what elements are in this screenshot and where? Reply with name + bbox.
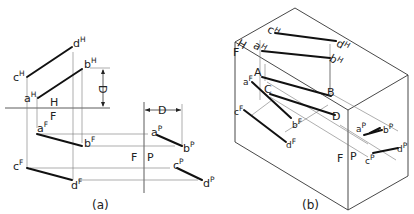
line-cd-front [244,110,286,142]
point-label-bP: bP [183,140,195,155]
line-cd-top [275,33,336,41]
caption-a: (a) [92,198,109,212]
plane-label-h: H [50,96,58,109]
point-label-cP: cP [365,153,375,166]
point-label-aH: aH [24,90,36,105]
figure-a: D D H F F P cH dH aH bH aF bF cF dF aP b… [5,35,215,212]
plane-label-f: F [50,110,56,123]
line-ab-front [37,134,82,146]
line-cd-side [373,148,398,153]
line-cd-top [27,47,72,77]
line-AB-space [262,77,331,96]
point-label-cF: cF [13,158,23,173]
dim-label-d-vertical: D [96,85,109,93]
plane-label-f2: F [131,151,137,164]
point-label-aF: aF [37,120,48,135]
line-ab-top [262,51,330,58]
point-label-C: C [264,83,272,96]
figure-b: F H F P A B C D cH dH aH bH aF bF cF dF … [233,8,408,212]
line-ab-top [38,69,82,98]
line-cd-front [27,168,72,180]
point-label-bH: bH [84,56,97,71]
point-label-dH: dH [73,35,86,50]
line-CD-space [270,94,335,115]
plane-label-f2: F [337,152,343,165]
dim-label-d-horizontal: D [158,104,166,117]
point-label-aP: aP [356,121,367,134]
point-label-bF: bF [292,117,302,130]
orthographic-projection-diagram: D D H F F P cH dH aH bH aF bF cF dF aP b… [0,0,414,214]
arrow-up-icon [101,69,105,74]
point-label-dH: dH [334,36,352,54]
plane-label-p: P [147,151,154,164]
proj-c-front [252,100,272,115]
box-edge-side-top [348,75,408,110]
plane-label-p: P [350,150,357,163]
arrow-right-icon [176,108,181,112]
point-label-dF: dF [286,137,296,150]
point-label-D: D [332,110,340,123]
arrow-down-icon [101,102,105,107]
point-label-A: A [254,66,262,79]
point-label-cH: cH [265,22,282,40]
line-cd-side [177,168,202,180]
point-label-cH: cH [13,69,25,84]
caption-b: (b) [302,198,319,212]
point-label-aF: aF [243,74,253,87]
point-label-bP: bP [383,122,394,135]
point-label-dP: dP [397,141,408,154]
point-label-B: B [327,86,335,99]
point-label-bF: bF [84,135,95,150]
point-label-dF: dF [71,177,82,192]
arrow-left-icon [145,108,150,112]
point-label-dP: dP [203,175,215,190]
line-ab-side [157,135,182,146]
